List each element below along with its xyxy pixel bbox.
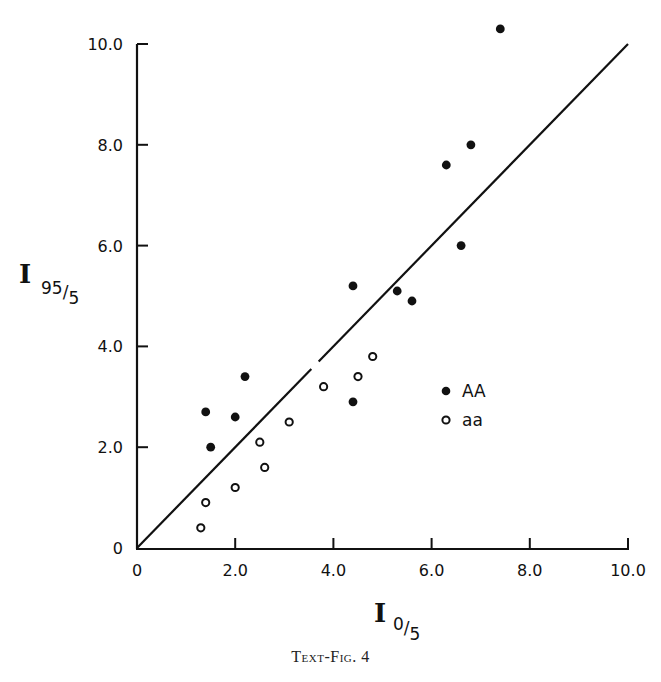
data-point-AA <box>201 408 210 417</box>
x-ticks: 02.04.06.08.010.0 <box>132 538 646 580</box>
data-point-AA <box>496 25 505 34</box>
x-tick-label: 4.0 <box>321 561 346 580</box>
data-point-AA <box>241 372 250 381</box>
y-tick-label: 10.0 <box>87 35 123 54</box>
data-point-AA <box>349 282 358 291</box>
data-point-aa <box>202 499 209 506</box>
data-point-aa <box>354 373 361 380</box>
data-point-AA <box>206 443 215 452</box>
x-tick-label: 8.0 <box>517 561 542 580</box>
x-axis-label-main: I <box>374 598 386 628</box>
y-tick-label: 0 <box>113 539 123 558</box>
legend-filled-circle-icon <box>442 387 451 396</box>
data-point-AA <box>442 161 451 170</box>
x-tick-label: 0 <box>132 561 142 580</box>
legend-open-circle-icon <box>442 416 449 423</box>
data-point-aa <box>232 484 239 491</box>
data-points <box>197 25 505 532</box>
x-tick-label: 2.0 <box>222 561 247 580</box>
reference-line-segment <box>137 369 311 548</box>
y-ticks: 02.04.06.08.010.0 <box>87 35 148 558</box>
reference-line-segment <box>319 44 628 362</box>
data-point-AA <box>231 413 240 422</box>
data-point-aa <box>286 418 293 425</box>
data-point-aa <box>369 353 376 360</box>
y-axis-label: I 95/5 <box>19 259 79 308</box>
y-tick-label: 4.0 <box>98 337 123 356</box>
scatter-chart: 02.04.06.08.010.0 02.04.06.08.010.0 I 95… <box>0 0 661 682</box>
legend: AA aa <box>442 381 486 430</box>
data-point-aa <box>261 464 268 471</box>
legend-label-aa: aa <box>462 410 483 430</box>
data-point-aa <box>320 383 327 390</box>
x-tick-label: 10.0 <box>610 561 646 580</box>
identity-reference-line <box>137 44 628 548</box>
figure-caption: Text-Fig. 4 <box>0 648 661 666</box>
y-tick-label: 6.0 <box>98 237 123 256</box>
x-axis-label: I 0/5 <box>374 598 420 644</box>
data-point-AA <box>457 241 466 250</box>
legend-label-AA: AA <box>462 381 486 401</box>
data-point-aa <box>256 439 263 446</box>
data-point-AA <box>408 297 417 306</box>
y-axis-label-subscript: 95/5 <box>41 278 79 308</box>
data-point-AA <box>393 287 402 296</box>
x-axis-label-subscript: 0/5 <box>393 614 420 644</box>
x-tick-label: 6.0 <box>419 561 444 580</box>
y-tick-label: 8.0 <box>98 136 123 155</box>
y-axis-label-main: I <box>19 259 31 289</box>
data-point-aa <box>197 524 204 531</box>
y-tick-label: 2.0 <box>98 438 123 457</box>
data-point-AA <box>349 397 358 406</box>
data-point-AA <box>467 140 476 149</box>
